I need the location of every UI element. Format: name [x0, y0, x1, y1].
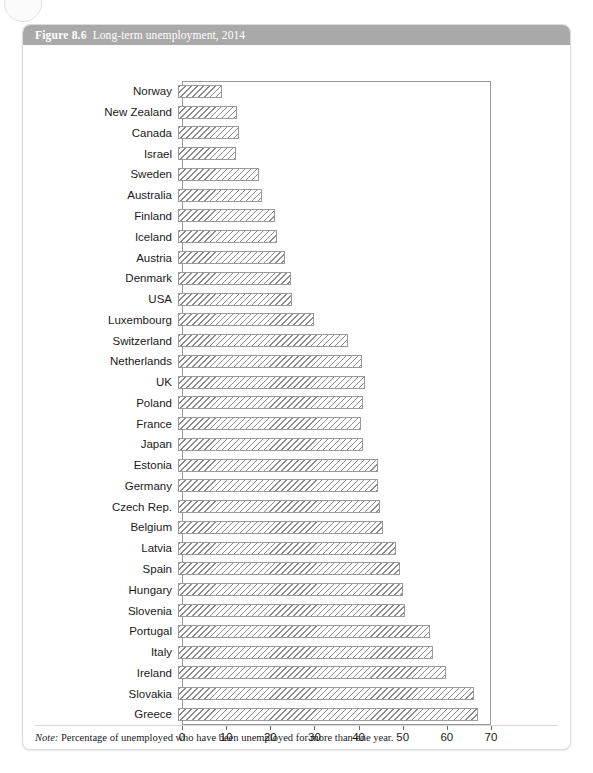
category-label: Poland [23, 397, 178, 409]
bar [178, 583, 403, 596]
bar [178, 85, 222, 98]
bar-row: Spain [23, 559, 570, 580]
decorative-corner-mark [4, 0, 42, 22]
bar-row: Luxembourg [23, 309, 570, 330]
bar [178, 459, 378, 472]
note-text: Percentage of unemployed who have been u… [58, 732, 393, 743]
bar [178, 542, 396, 555]
chart-area: NorwayNew ZealandCanadaIsraelSwedenAustr… [23, 45, 570, 705]
category-label: Slovenia [23, 605, 178, 617]
category-label: Slovakia [23, 688, 178, 700]
bar-track [178, 289, 570, 310]
category-label: Netherlands [23, 355, 178, 367]
bar-row: Slovenia [23, 600, 570, 621]
bar [178, 293, 292, 306]
bar-row: Poland [23, 392, 570, 413]
category-label: USA [23, 293, 178, 305]
bar-row: USA [23, 289, 570, 310]
bar [178, 147, 236, 160]
bar [178, 126, 239, 139]
category-label: New Zealand [23, 106, 178, 118]
footnotes: Note: Percentage of unemployed who have … [35, 731, 560, 750]
bar-row: Switzerland [23, 330, 570, 351]
bar [178, 334, 348, 347]
bar-row: France [23, 413, 570, 434]
category-label: Ireland [23, 667, 178, 679]
bar-track [178, 330, 570, 351]
bar-row: Slovakia [23, 683, 570, 704]
bar-track [178, 351, 570, 372]
bar [178, 604, 405, 617]
category-label: Greece [23, 708, 178, 720]
bar-row: Czech Rep. [23, 496, 570, 517]
bar-track [178, 102, 570, 123]
bar-track [178, 123, 570, 144]
category-label: Sweden [23, 168, 178, 180]
bar [178, 562, 400, 575]
bar-row: Hungary [23, 579, 570, 600]
bar-row: UK [23, 372, 570, 393]
bar-track [178, 476, 570, 497]
category-label: Austria [23, 252, 178, 264]
bar [178, 708, 478, 721]
bar [178, 106, 237, 119]
bar [178, 500, 380, 513]
category-label: Estonia [23, 459, 178, 471]
bar-track [178, 579, 570, 600]
category-label: Australia [23, 189, 178, 201]
category-label: Denmark [23, 272, 178, 284]
bar [178, 230, 277, 243]
bar-row: Iceland [23, 226, 570, 247]
bar-row: Finland [23, 206, 570, 227]
bar-row: Italy [23, 642, 570, 663]
bar [178, 168, 259, 181]
category-label: Belgium [23, 521, 178, 533]
category-label: Spain [23, 563, 178, 575]
bar-track [178, 372, 570, 393]
bar [178, 396, 363, 409]
footnote-divider [35, 725, 558, 726]
bar-track [178, 434, 570, 455]
bar-track [178, 185, 570, 206]
bar-track [178, 226, 570, 247]
bar-row: Austria [23, 247, 570, 268]
category-label: Japan [23, 438, 178, 450]
category-label: Czech Rep. [23, 501, 178, 513]
bar [178, 272, 291, 285]
bar-track [178, 704, 570, 725]
bar-track [178, 662, 570, 683]
figure-number: Figure 8.6 [35, 29, 87, 41]
figure-container: Figure 8.6 Long-term unemployment, 2014 … [22, 24, 571, 750]
bar-row: Japan [23, 434, 570, 455]
bar-track [178, 559, 570, 580]
note-line: Note: Percentage of unemployed who have … [35, 731, 560, 745]
category-label: Germany [23, 480, 178, 492]
bar-row: Belgium [23, 517, 570, 538]
bar-row: Canada [23, 123, 570, 144]
bar [178, 417, 361, 430]
category-label: Israel [23, 148, 178, 160]
category-label: Canada [23, 127, 178, 139]
bar-track [178, 600, 570, 621]
bar-row: Australia [23, 185, 570, 206]
bar-row: Israel [23, 143, 570, 164]
bar-row: Germany [23, 476, 570, 497]
bar-rows: NorwayNew ZealandCanadaIsraelSwedenAustr… [23, 81, 570, 725]
bar-row: New Zealand [23, 102, 570, 123]
category-label: Italy [23, 646, 178, 658]
note-label: Note: [35, 732, 58, 743]
category-label: Switzerland [23, 335, 178, 347]
figure-title-bar: Figure 8.6 Long-term unemployment, 2014 [23, 25, 570, 45]
bar-track [178, 621, 570, 642]
bar-track [178, 642, 570, 663]
bar [178, 438, 363, 451]
category-label: France [23, 418, 178, 430]
bar-row: Portugal [23, 621, 570, 642]
bar-row: Norway [23, 81, 570, 102]
bar [178, 209, 275, 222]
bar-row: Ireland [23, 662, 570, 683]
category-label: Hungary [23, 584, 178, 596]
bar [178, 666, 446, 679]
bar-track [178, 268, 570, 289]
bar-track [178, 164, 570, 185]
